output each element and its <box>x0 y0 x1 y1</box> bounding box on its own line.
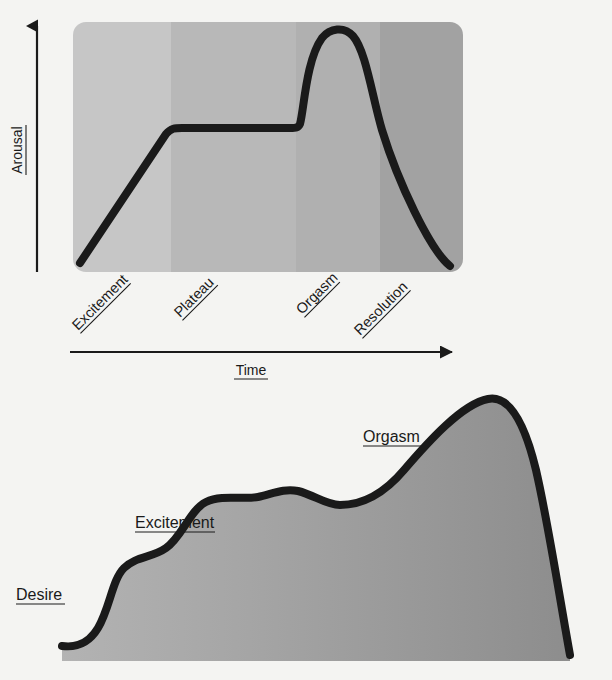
y-axis: Arousal <box>9 26 37 272</box>
sexual-response-cycle-figure: Arousal Time Excitement Plateau <box>0 0 612 680</box>
phase-label-plateau: Plateau <box>171 274 217 320</box>
x-axis-label: Time <box>236 362 267 378</box>
stage-label-excitement-group: Excitement <box>135 514 215 532</box>
phase-label-resolution: Resolution <box>351 278 411 338</box>
top-chart: Arousal Time Excitement Plateau <box>9 22 463 379</box>
phase-bands <box>73 22 463 272</box>
phase-label-excitement: Excitement <box>69 271 131 333</box>
stage-label-desire-group: Desire <box>16 586 65 604</box>
diagram-root: Arousal Time Excitement Plateau <box>0 0 612 680</box>
phase-label-excitement-group: Excitement <box>69 271 131 333</box>
x-axis: Time <box>70 352 452 379</box>
phase-label-resolution-group: Resolution <box>351 278 411 338</box>
stage-label-excitement: Excitement <box>135 514 215 531</box>
phase-label-orgasm-group: Orgasm <box>293 269 341 317</box>
phase-label-plateau-group: Plateau <box>171 273 218 320</box>
stage-label-orgasm: Orgasm <box>363 428 420 445</box>
stage-label-orgasm-group: Orgasm <box>363 428 421 446</box>
stage-label-desire: Desire <box>16 586 62 603</box>
phase-label-orgasm: Orgasm <box>293 269 341 317</box>
bottom-chart: Desire Excitement Orgasm <box>16 399 570 661</box>
phase-band-resolution <box>380 22 463 272</box>
y-axis-label: Arousal <box>9 126 25 173</box>
phase-band-plateau <box>171 22 296 272</box>
